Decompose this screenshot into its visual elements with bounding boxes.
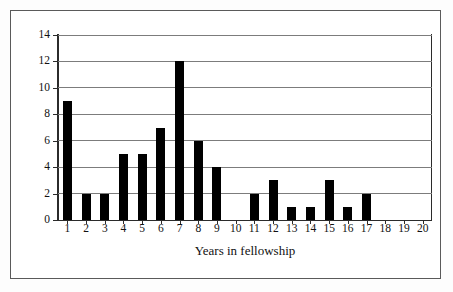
plot-area (58, 35, 432, 220)
y-tick-label: 12 (10, 55, 50, 67)
y-tick-label: 4 (10, 161, 50, 173)
bar (194, 141, 203, 220)
bar (269, 180, 278, 220)
x-tick-label: 20 (411, 223, 435, 235)
bar (287, 207, 296, 220)
y-tick-label: 8 (10, 108, 50, 120)
y-tick-label: 2 (10, 188, 50, 200)
bar (325, 180, 334, 220)
y-tick-label: 0 (10, 214, 50, 226)
bar (82, 194, 91, 220)
chart-figure: 02468101214 1234567891011121314151617181… (0, 0, 453, 292)
bar (100, 194, 109, 220)
bar (306, 207, 315, 220)
bar (343, 207, 352, 220)
y-tick-mark (53, 220, 58, 221)
bar (63, 101, 72, 220)
y-tick-label: 10 (10, 82, 50, 94)
bar (138, 154, 147, 220)
y-tick-label: 14 (10, 29, 50, 41)
y-tick-label: 6 (10, 135, 50, 147)
bar (212, 167, 221, 220)
x-axis-title: Years in fellowship (58, 243, 432, 259)
bar (362, 194, 371, 220)
bar (175, 61, 184, 220)
bar (156, 128, 165, 221)
bar (250, 194, 259, 220)
bar (119, 154, 128, 220)
